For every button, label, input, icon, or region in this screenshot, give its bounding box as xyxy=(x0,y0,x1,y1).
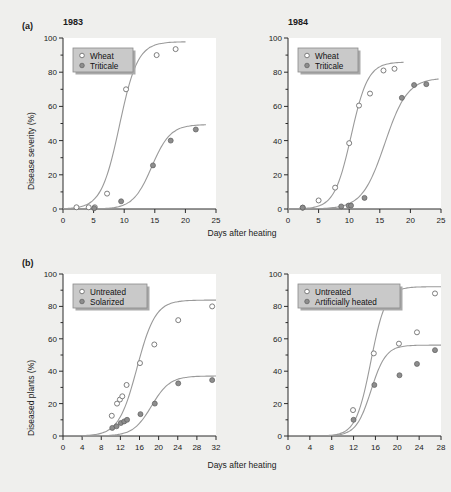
svg-text:20: 20 xyxy=(48,171,57,180)
chart-a-xlabel: Days after heating xyxy=(132,228,352,238)
svg-text:80: 80 xyxy=(48,68,57,77)
svg-text:12: 12 xyxy=(349,443,358,452)
svg-text:20: 20 xyxy=(154,443,163,452)
svg-text:10: 10 xyxy=(120,216,129,225)
svg-text:Solarized: Solarized xyxy=(90,298,125,307)
svg-text:0: 0 xyxy=(278,432,283,441)
svg-text:0: 0 xyxy=(286,443,291,452)
chart-a-right: 0204060801000510152025WheatTriticale xyxy=(225,0,451,230)
svg-text:10: 10 xyxy=(345,216,354,225)
svg-text:Untreated: Untreated xyxy=(315,288,351,297)
figure-root: (a) 1983 1984 Disease severity (%) 02040… xyxy=(0,0,451,492)
svg-text:Triticale: Triticale xyxy=(90,62,119,71)
svg-text:Triticale: Triticale xyxy=(315,62,344,71)
svg-text:60: 60 xyxy=(48,102,57,111)
svg-text:28: 28 xyxy=(192,443,201,452)
svg-text:100: 100 xyxy=(44,270,58,279)
svg-text:0: 0 xyxy=(61,216,66,225)
svg-text:15: 15 xyxy=(150,216,159,225)
svg-text:Untreated: Untreated xyxy=(90,288,126,297)
svg-text:40: 40 xyxy=(48,137,57,146)
chart-b-right: 0204060801000481216202428UntreatedArtifi… xyxy=(225,246,451,464)
svg-text:8: 8 xyxy=(329,443,334,452)
svg-text:16: 16 xyxy=(371,443,380,452)
svg-text:0: 0 xyxy=(278,205,283,214)
svg-text:20: 20 xyxy=(273,400,282,409)
svg-text:60: 60 xyxy=(273,102,282,111)
svg-text:25: 25 xyxy=(437,216,446,225)
svg-text:0: 0 xyxy=(286,216,291,225)
panel-b: (b) Diseased plants (%) 0204060801000481… xyxy=(0,246,451,492)
svg-text:100: 100 xyxy=(269,270,283,279)
svg-text:80: 80 xyxy=(273,68,282,77)
svg-text:25: 25 xyxy=(212,216,221,225)
chart-b-left: 020406080100048121620242832UntreatedSola… xyxy=(0,246,240,464)
svg-text:4: 4 xyxy=(308,443,313,452)
chart-a-left: 0204060801000510152025WheatTriticale xyxy=(0,0,240,230)
svg-text:20: 20 xyxy=(273,171,282,180)
svg-text:Wheat: Wheat xyxy=(315,52,339,61)
svg-text:40: 40 xyxy=(273,367,282,376)
svg-text:20: 20 xyxy=(48,400,57,409)
svg-text:28: 28 xyxy=(437,443,446,452)
svg-text:100: 100 xyxy=(269,34,283,43)
svg-text:80: 80 xyxy=(273,302,282,311)
svg-text:12: 12 xyxy=(116,443,125,452)
svg-text:40: 40 xyxy=(48,367,57,376)
svg-text:8: 8 xyxy=(99,443,104,452)
svg-text:5: 5 xyxy=(91,216,96,225)
svg-text:80: 80 xyxy=(48,302,57,311)
svg-text:60: 60 xyxy=(48,335,57,344)
svg-text:60: 60 xyxy=(273,335,282,344)
svg-text:20: 20 xyxy=(406,216,415,225)
svg-text:5: 5 xyxy=(316,216,321,225)
panel-a: (a) 1983 1984 Disease severity (%) 02040… xyxy=(0,0,451,246)
svg-text:20: 20 xyxy=(181,216,190,225)
svg-text:20: 20 xyxy=(393,443,402,452)
svg-text:40: 40 xyxy=(273,137,282,146)
svg-text:Wheat: Wheat xyxy=(90,52,114,61)
svg-text:24: 24 xyxy=(415,443,424,452)
svg-text:0: 0 xyxy=(53,205,58,214)
svg-text:24: 24 xyxy=(173,443,182,452)
svg-text:0: 0 xyxy=(53,432,58,441)
svg-text:Artificially heated: Artificially heated xyxy=(315,298,377,307)
svg-text:0: 0 xyxy=(61,443,66,452)
svg-text:100: 100 xyxy=(44,34,58,43)
svg-text:15: 15 xyxy=(375,216,384,225)
svg-text:4: 4 xyxy=(80,443,85,452)
svg-text:32: 32 xyxy=(212,443,221,452)
svg-text:16: 16 xyxy=(135,443,144,452)
chart-b-xlabel: Days after heating xyxy=(132,460,352,470)
